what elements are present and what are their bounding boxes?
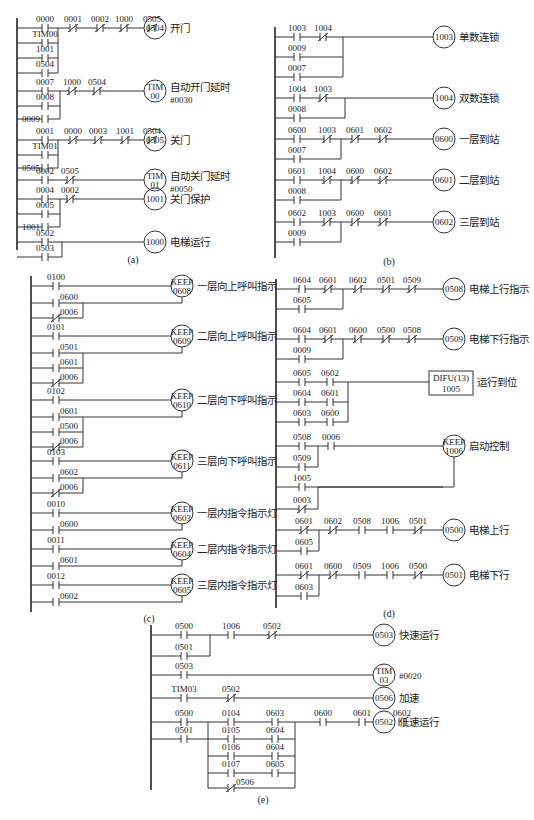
coil-description: 一层到站	[459, 133, 500, 145]
contact-label: 1006	[381, 516, 400, 526]
no-contact: 0600	[321, 408, 340, 426]
contact-label: 1000	[115, 14, 134, 24]
no-contact: 0605	[293, 368, 312, 386]
contact-label: 0104	[222, 708, 241, 718]
output-coil: 1000电梯运行	[144, 231, 211, 253]
contact-label: 0503	[36, 243, 55, 253]
keep-relay-coil: KEEP0603一层内指令指示灯	[171, 502, 278, 524]
keep-relay-coil: KEEP0608一层向上呼叫指示	[171, 275, 277, 297]
contact-label: 0103	[47, 447, 66, 457]
no-contact: 0601	[321, 388, 339, 406]
rung: 0504开门00000001000210000505TIM0010010504	[17, 14, 190, 77]
panel-a: 0504开门00000001000210000505TIM0010010504T…	[17, 14, 231, 266]
rung: 0500电梯上行060106020508100605010605	[276, 516, 510, 555]
contact-label: 0509	[293, 453, 312, 463]
contact-label: TIM00	[32, 29, 58, 39]
no-contact: 0008	[288, 104, 307, 122]
contact-label: 0600	[349, 325, 368, 335]
contact-label: 0012	[47, 571, 65, 581]
no-contact: 0603	[293, 408, 312, 426]
panel-caption: (d)	[383, 608, 395, 620]
no-contact: 0604	[293, 388, 312, 406]
contact-label: 0002	[91, 14, 109, 24]
coil-address: 1001	[146, 194, 164, 204]
contact-label: 0505	[143, 14, 162, 24]
no-contact: 0500	[175, 708, 194, 726]
rung: KEEP1006启动控制050800060509	[276, 432, 509, 471]
nc-contact	[226, 784, 236, 792]
panel-e: 0503快速运行0500100605020501TIM03#0020050305…	[151, 621, 440, 806]
coil-description: 运行到位	[477, 376, 518, 388]
contact-label: 0006	[60, 482, 79, 492]
nc-contact: 0003	[293, 495, 312, 513]
output-coil: 0508电梯上行指示	[443, 278, 529, 300]
contact-label: 0501	[175, 642, 193, 652]
rung: KEEP0609二层向上呼叫指示0101050106010006	[31, 322, 277, 387]
panel-caption: (b)	[383, 256, 395, 268]
contact-label: 0009	[293, 345, 312, 355]
contact-label: 0501	[60, 342, 78, 352]
nc-contact: 0003	[89, 126, 108, 144]
ladder-diagram-figure: 0504开门00000001000210000505TIM0010010504T…	[0, 0, 534, 820]
contact-label: 0601	[353, 708, 371, 718]
contact-label: 0602	[321, 368, 339, 378]
keep-relay-coil: KEEP0609二层向上呼叫指示	[171, 325, 277, 347]
no-contact: 0007	[288, 145, 307, 163]
contact-label: 0008	[288, 104, 307, 114]
nc-contact: 0601	[319, 275, 337, 293]
contact-label: 1005	[293, 473, 312, 483]
no-contact: 0600	[288, 125, 307, 143]
coil-description: 二层向上呼叫指示	[197, 330, 277, 342]
contact-label: 0605	[266, 759, 285, 769]
no-contact: 0008	[288, 186, 307, 204]
contact-label: 0601	[295, 516, 313, 526]
rung: KEEP0610二层向下呼叫指示0102060105000006	[31, 386, 277, 451]
nc-contact: 0001	[64, 14, 82, 32]
contact-label: 0002	[61, 185, 79, 195]
rung: 10050003	[276, 457, 454, 513]
rung: 0600一层到站06001003060106020007	[275, 125, 500, 163]
coil-description: 双数连锁	[459, 92, 500, 104]
no-contact: 0509	[353, 561, 372, 579]
contact-label: 0600	[314, 708, 333, 718]
panel-d: 0508电梯上行指示0604060106020501050906050509电梯…	[276, 275, 529, 620]
rung: 0503快速运行0500100605020501	[151, 621, 440, 660]
no-contact: 0007	[288, 63, 307, 81]
rung: KEEP0605三层内指令指示灯00120602	[31, 571, 278, 606]
contact-label: 0000	[64, 126, 83, 136]
contact-label: 0602	[60, 467, 78, 477]
coil-address: 00	[151, 91, 161, 101]
panel-caption: (c)	[143, 613, 154, 625]
no-contact: 0600	[314, 708, 333, 726]
contact-label: 0600	[60, 519, 79, 529]
contact-label: TIM01	[32, 141, 58, 151]
nc-contact: 0002	[91, 14, 109, 32]
nc-contact: 0504	[88, 77, 107, 95]
coil-address: 0603	[173, 513, 192, 523]
contact-label: 1003	[318, 125, 337, 135]
output-coil: 0503快速运行	[373, 624, 440, 646]
contact-label: 0500	[60, 421, 79, 431]
rung: 0602三层到站06021003060006010009	[275, 208, 500, 246]
contact-label: 0007	[288, 145, 307, 155]
coil-address: 0602	[435, 217, 453, 227]
contact-label: 0001	[36, 126, 54, 136]
block-name: DIFU(13)	[433, 373, 469, 383]
coil-description: 电梯运行	[170, 236, 211, 248]
contact-label: 0001	[64, 14, 82, 24]
contact-label: 0504	[36, 59, 55, 69]
contact-label: 0601	[60, 555, 78, 565]
rung: KEEP0603一层内指令指示灯00100600	[31, 499, 278, 534]
contact-label: 0604	[293, 388, 312, 398]
timer-preset: #0030	[170, 95, 193, 105]
rung: 1001关门保护0004000200051001	[17, 185, 210, 232]
no-contact: 0501	[175, 642, 193, 660]
no-contact: 0002	[36, 166, 54, 184]
contact-label: 0603	[293, 408, 312, 418]
no-contact: 0006	[322, 432, 341, 450]
contact-label: 0509	[353, 561, 372, 571]
rung: 0509电梯下行指示060406010600050005080009	[276, 325, 529, 363]
coil-description: 快速运行	[399, 629, 440, 641]
no-contact: 0503	[36, 243, 55, 261]
contact-label: 0509	[403, 275, 422, 285]
